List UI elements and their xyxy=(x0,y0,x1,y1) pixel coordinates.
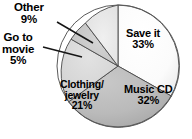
slice-label-go-to-movie: Go to movie 5% xyxy=(2,32,34,67)
slice-label-other: Other 9% xyxy=(14,2,44,25)
slice-label-other-name: Other xyxy=(14,2,44,14)
slice-label-save-it-value: 33% xyxy=(126,39,160,50)
slice-label-go-to-movie-value: 5% xyxy=(2,55,34,67)
slice-label-other-value: 9% xyxy=(14,14,44,26)
slice-label-music-cd-value: 32% xyxy=(124,95,173,106)
pie-chart: Save it 33% Music CD 32% Clothing/ jewel… xyxy=(0,0,192,139)
slice-label-clothing-jewelry-value: 21% xyxy=(60,100,104,111)
slice-label-clothing-jewelry: Clothing/ jewelry 21% xyxy=(60,79,104,111)
slice-label-go-to-movie-name-line1: Go to xyxy=(2,32,34,44)
slice-label-music-cd: Music CD 32% xyxy=(124,84,173,106)
slice-label-save-it: Save it 33% xyxy=(126,28,160,50)
